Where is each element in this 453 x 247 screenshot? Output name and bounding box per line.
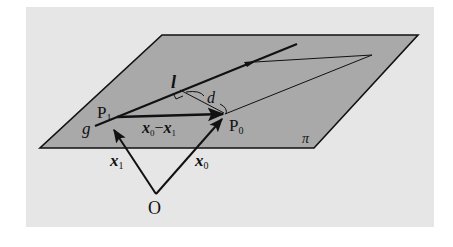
label-direction-l: l	[171, 72, 176, 92]
label-vector-difference: x0−x1	[141, 119, 176, 138]
label-line-g: g	[82, 119, 91, 138]
label-origin-o: O	[148, 198, 161, 218]
line-point-distance-diagram: π g l d P1 P0 O x1 x0 x0−x1	[0, 0, 453, 247]
label-plane-pi: π	[302, 131, 310, 146]
label-distance-d: d	[207, 89, 216, 106]
